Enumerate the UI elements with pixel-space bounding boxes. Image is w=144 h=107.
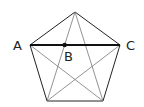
pentagon-diagonals: [30, 12, 120, 101]
pentagon-sides: [30, 12, 120, 101]
label-c: C: [126, 38, 135, 53]
label-a: A: [13, 38, 22, 53]
point-b: [62, 43, 66, 47]
side-top-to-c: [75, 12, 120, 45]
diagonal-top-to-bottom-right: [75, 12, 103, 101]
label-b: B: [64, 49, 73, 64]
pentagon-diagram: A B C: [0, 0, 144, 107]
side-a-to-bottom-left: [30, 45, 47, 101]
diagonal-c-to-bottom-left: [47, 45, 120, 101]
side-top-to-a: [30, 12, 75, 45]
side-c-to-bottom-right: [103, 45, 120, 101]
